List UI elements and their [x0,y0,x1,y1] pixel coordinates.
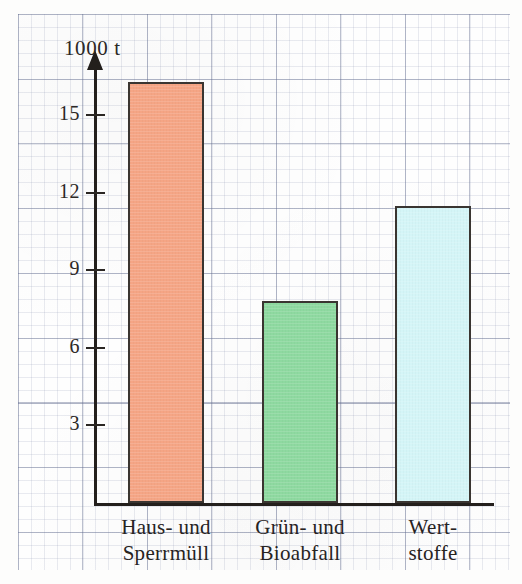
category-label-1: Haus- undSperrmüll [96,514,236,566]
x-axis-line [94,503,494,506]
bar-fill-texture [130,84,202,501]
y-tick-15 [86,114,105,116]
y-tick-9 [86,269,105,271]
graph-paper-sheet: 1000 t 1512963 Haus- undSperrmüllGrün- u… [18,14,510,570]
y-tick-label-9: 9 [38,257,80,280]
category-label-line2: Sperrmüll [96,540,236,566]
category-label-line2: Bioabfall [230,540,370,566]
bar-fill-texture [397,208,469,501]
chart-page: 1000 t 1512963 Haus- undSperrmüllGrün- u… [0,0,522,584]
y-tick-12 [86,192,105,194]
bar-3 [395,206,471,503]
y-tick-6 [86,347,105,349]
category-label-line1: Grün- und [255,515,345,539]
y-axis-line [94,64,97,506]
y-tick-label-12: 12 [38,180,80,203]
bar-2 [262,301,338,503]
bar-1 [128,82,204,503]
bar-fill-texture [264,303,336,501]
category-label-line1: Wert- [409,515,458,539]
category-label-2: Grün- undBioabfall [230,514,370,566]
plot-area: 1000 t 1512963 Haus- undSperrmüllGrün- u… [18,14,510,570]
y-tick-3 [86,424,105,426]
category-label-line1: Haus- und [121,515,211,539]
y-axis-unit-label: 1000 t [64,36,121,61]
y-tick-label-15: 15 [38,102,80,125]
category-label-3: Wert-stoffe [363,514,503,566]
category-label-line2: stoffe [363,540,503,566]
y-tick-label-6: 6 [38,335,80,358]
y-tick-label-3: 3 [38,412,80,435]
